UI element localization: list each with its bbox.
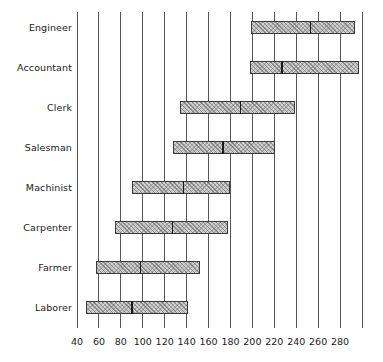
x-tick-label-160: 160 xyxy=(199,336,217,347)
bar-row xyxy=(0,288,383,328)
x-tick-label-120: 120 xyxy=(156,336,174,347)
median-marker-machinist xyxy=(183,181,185,194)
x-tick-label-260: 260 xyxy=(309,336,327,347)
x-tick-label-180: 180 xyxy=(221,336,239,347)
bar-row xyxy=(0,208,383,248)
plot-area xyxy=(0,0,383,362)
range-bar-farmer xyxy=(96,261,200,274)
median-marker-farmer xyxy=(140,261,142,274)
median-marker-carpenter xyxy=(172,221,174,234)
median-marker-clerk xyxy=(240,101,242,114)
x-tick-label-80: 80 xyxy=(115,336,127,347)
x-axis: 406080100120140160180200220240260280 xyxy=(0,328,383,362)
range-bar-chart: EngineerAccountantClerkSalesmanMachinist… xyxy=(0,0,383,362)
x-tick-label-100: 100 xyxy=(134,336,152,347)
x-tick-label-240: 240 xyxy=(287,336,305,347)
x-tick-label-140: 140 xyxy=(178,336,196,347)
bar-row xyxy=(0,88,383,128)
bar-row xyxy=(0,248,383,288)
range-bar-accountant xyxy=(250,61,359,74)
median-marker-accountant xyxy=(281,61,283,74)
range-bar-machinist xyxy=(132,181,231,194)
x-tick-label-280: 280 xyxy=(331,336,349,347)
x-tick-label-200: 200 xyxy=(243,336,261,347)
median-marker-salesman xyxy=(222,141,224,154)
bar-row xyxy=(0,8,383,48)
bar-row xyxy=(0,128,383,168)
bar-row xyxy=(0,48,383,88)
median-marker-engineer xyxy=(310,21,312,34)
bar-row xyxy=(0,168,383,208)
x-tick-label-60: 60 xyxy=(93,336,105,347)
range-bar-salesman xyxy=(173,141,275,154)
range-bar-engineer xyxy=(251,21,355,34)
median-marker-laborer xyxy=(131,301,133,314)
x-tick-label-220: 220 xyxy=(265,336,283,347)
x-tick-label-40: 40 xyxy=(71,336,83,347)
range-bar-laborer xyxy=(86,301,188,314)
range-bar-clerk xyxy=(180,101,295,114)
